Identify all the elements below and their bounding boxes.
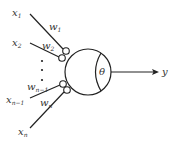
- input-label-2: x2: [12, 38, 21, 51]
- synapse-n: [64, 87, 71, 94]
- synapse-2: [59, 55, 66, 62]
- neuron-diagram: [0, 0, 177, 143]
- synapse-1: [63, 48, 70, 55]
- weight-label-2: w2: [42, 41, 54, 54]
- threshold-label: θ: [99, 67, 105, 77]
- input-label-n-1: xn−1: [6, 95, 24, 108]
- synapse-n-1: [60, 81, 67, 88]
- weight-label-n-1: wn−1: [27, 82, 48, 95]
- input-label-1: x1: [12, 8, 21, 21]
- weight-label-n: wn: [40, 98, 52, 111]
- ellipsis-dots: [41, 60, 43, 81]
- weight-label-1: w1: [49, 22, 61, 35]
- input-label-n: xn: [18, 127, 28, 140]
- output-label: y: [162, 67, 168, 77]
